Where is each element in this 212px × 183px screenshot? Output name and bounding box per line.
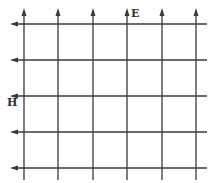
- h-field-label: H: [7, 97, 17, 108]
- up-arrow-icon: [194, 8, 199, 16]
- up-arrow-icon: [56, 8, 61, 16]
- left-arrow-icon: [10, 22, 18, 27]
- up-arrow-icon: [22, 8, 27, 16]
- up-arrow-icon: [125, 8, 130, 16]
- e-field-label: E: [131, 8, 139, 19]
- left-arrow-icon: [10, 58, 18, 63]
- up-arrow-icon: [91, 8, 96, 16]
- field-grid: [0, 0, 212, 183]
- left-arrow-icon: [10, 130, 18, 135]
- left-arrow-icon: [10, 166, 18, 171]
- up-arrow-icon: [160, 8, 165, 16]
